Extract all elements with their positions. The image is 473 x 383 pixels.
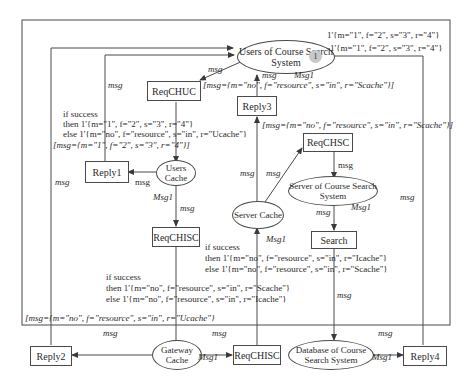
guard-reply2: [msg={m="no", f="resource", s="in", r="U… xyxy=(25,313,215,323)
arc-label-msg: msg xyxy=(337,290,352,300)
condition-users-cache-else: else 1'{m="no", f="resource", s="in", r=… xyxy=(63,129,247,139)
arc-label-msg: msg xyxy=(135,177,150,187)
initial-marking-line-2: 1'{m="1", f="2", s="3", r="4"} xyxy=(330,43,442,53)
petri-net-diagram: Users of Course Search System 1 Users Ca… xyxy=(0,0,473,383)
arc-label-msg: msg xyxy=(212,328,227,338)
arc-label-msg: msg xyxy=(240,168,255,178)
arc-label-msg: msg xyxy=(400,192,415,202)
transition-reply4[interactable]: Reply4 xyxy=(403,346,447,366)
arc-label-Msg1: Msg1 xyxy=(351,202,371,212)
arc-label-Msg1: Msg1 xyxy=(266,234,286,244)
transition-reqchuc[interactable]: ReqCHUC xyxy=(147,81,201,101)
condition-gateway-cache-then: then 1'{m="no", f="resource", s="in", r=… xyxy=(106,283,290,293)
condition-users-cache-then: then 1'{m="1", f="2", s="3", r="4"} xyxy=(63,119,193,129)
arc-label-msg: msg xyxy=(180,203,195,213)
arc-label-msg: msg xyxy=(103,328,118,338)
place-database-of-course-search-system[interactable]: Database of Course Search System xyxy=(288,340,374,370)
arc-label-Msg1: Msg1 xyxy=(294,70,314,80)
token-marker: 1 xyxy=(309,50,322,63)
transition-reply3[interactable]: Reply3 xyxy=(237,96,277,116)
transition-reply2[interactable]: Reply2 xyxy=(30,346,72,366)
arc-label-msg: msg xyxy=(262,70,277,80)
condition-users-cache-if: if success xyxy=(63,109,98,119)
transition-search[interactable]: Search xyxy=(311,231,357,249)
arc-label-msg: msg xyxy=(316,207,331,217)
condition-gateway-cache-else: else 1'{m="no", f="resource", s="in", r=… xyxy=(106,294,287,304)
condition-gateway-cache-if: if success xyxy=(106,272,141,282)
arc-label-Msg1: Msg1 xyxy=(198,352,218,362)
arc-label-msg: msg xyxy=(55,177,70,187)
place-gateway-cache[interactable]: Gateway Cache xyxy=(152,340,202,370)
transition-reqchisc-upper[interactable]: ReqCHISC xyxy=(152,227,200,247)
arc-label-msg: msg xyxy=(378,328,393,338)
arc-label-Msg1: Msg1 xyxy=(372,352,392,362)
transition-reqchisc-lower[interactable]: ReqCHISC xyxy=(233,345,281,365)
arc-label-msg: msg xyxy=(108,80,123,90)
arc-label-Msg1: Msg1 xyxy=(153,192,173,202)
place-server-cache[interactable]: Server Cache xyxy=(232,201,284,229)
condition-server-cache-then: then 1'{m="no", f="resource", s="in", r=… xyxy=(205,253,387,263)
condition-server-cache-if: if success xyxy=(205,242,240,252)
transition-reqchsc[interactable]: ReqCHSC xyxy=(303,133,353,152)
guard-reply1: [msg={m="1", f="2", s="3", r="4"}] xyxy=(53,140,190,150)
arc-label-msg: msg xyxy=(338,160,353,170)
condition-server-cache-else: else 1'{m="no", f="resource", s="in", r=… xyxy=(205,264,388,274)
arc-label-msg: msg xyxy=(208,64,223,74)
place-users-cache[interactable]: Users Cache xyxy=(156,160,196,186)
initial-marking-line-1: 1'{m="1", f="2", s="3", r="4"} xyxy=(327,30,439,40)
arc-label-msg: msg xyxy=(266,168,281,178)
guard-reply3-bottom: [msg={m="no", f="resource", s="in", r="S… xyxy=(262,120,453,130)
guard-reply3-top: [msg={m="no", f="resource", s="in", r="S… xyxy=(203,80,394,90)
transition-reply1[interactable]: Reply1 xyxy=(85,161,129,183)
